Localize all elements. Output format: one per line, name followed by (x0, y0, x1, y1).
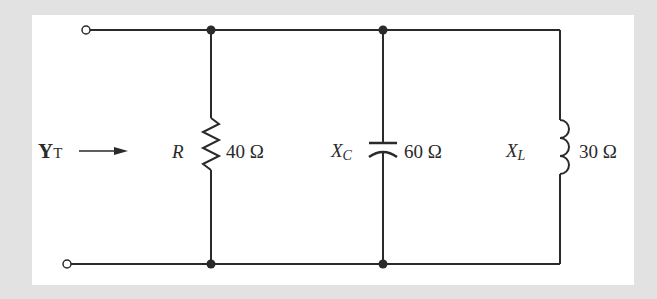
capacitor-icon (369, 30, 397, 264)
resistor-symbol-label: R (172, 142, 184, 161)
inductor-value-label: 30 Ω (579, 142, 617, 161)
circuit-diagram (0, 0, 657, 299)
junction-node-icon (207, 26, 216, 35)
junction-node-icon (207, 260, 216, 269)
inductor-symbol-label: XL (506, 141, 525, 163)
junction-node-icon (379, 26, 388, 35)
resistor-icon (203, 30, 219, 264)
resistor-value-label: 40 Ω (226, 142, 264, 161)
inductor-icon (560, 30, 569, 264)
bottom-terminal-icon (63, 260, 71, 268)
junction-node-icon (379, 260, 388, 269)
top-terminal-icon (82, 26, 90, 34)
capacitor-symbol-label: XC (331, 141, 352, 163)
capacitor-value-label: 60 Ω (404, 142, 442, 161)
total-admittance-label: YT (38, 141, 62, 162)
